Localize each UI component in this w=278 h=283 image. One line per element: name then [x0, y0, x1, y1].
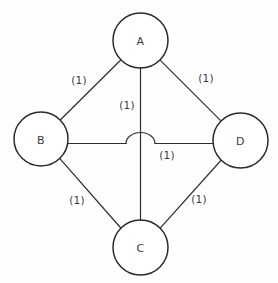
edge-weight-a-d: (1) — [198, 73, 213, 84]
edge-a-d — [160, 60, 221, 121]
node-label-b: B — [37, 134, 45, 145]
edge-a-b — [61, 60, 122, 120]
graph-diagram-canvas: A B C D (1) (1) (1) (1) (1) (1) — [0, 0, 278, 283]
edge-weight-c-d: (1) — [191, 194, 206, 205]
node-label-c: C — [137, 243, 145, 254]
edge-weight-a-c: (1) — [119, 100, 134, 111]
node-label-a: A — [137, 36, 145, 47]
edge-weight-b-c: (1) — [69, 195, 84, 206]
node-label-d: D — [236, 136, 245, 147]
edge-weight-b-d: (1) — [159, 150, 174, 161]
edge-weight-a-b: (1) — [71, 75, 86, 86]
